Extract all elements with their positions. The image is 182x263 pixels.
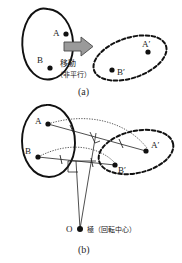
panel-a-label-B-prime: B′	[117, 67, 125, 77]
move-label-main: 移動	[60, 58, 76, 68]
pole-label: 極（回転中心）	[87, 225, 136, 234]
chord-A-Aprime	[48, 124, 146, 151]
panel-b-label-B: B	[25, 146, 31, 156]
panel-a-label-A-prime: A′	[142, 39, 150, 49]
move-block-arrow	[64, 37, 93, 56]
figure-root: A B 移動 （非平行） A′ B′ (a)	[0, 0, 182, 263]
panel-b-point-B	[35, 154, 40, 159]
panel-b-source-blob	[22, 105, 75, 177]
rotation-pole-diagram: A B 移動 （非平行） A′ B′ (a)	[0, 0, 182, 263]
panel-b-target-blob	[94, 123, 178, 181]
move-label-sub: （非平行）	[56, 70, 91, 79]
panel-b-label-A-prime: A′	[151, 140, 159, 150]
panel-b-label-B-prime: B′	[118, 165, 126, 175]
panel-a-target-blob	[88, 27, 173, 90]
arc-A-to-Aprime	[48, 119, 147, 148]
bisector-A-Aprime	[80, 133, 96, 229]
panel-a-point-A-prime	[145, 49, 150, 54]
panel-b-point-A-prime	[143, 148, 148, 153]
bisector-B-Bprime	[76, 161, 80, 229]
panel-b-label-A: A	[35, 116, 42, 126]
caption-b: (b)	[78, 244, 90, 256]
panel-b: A B A′ B′ O 極（回転中心） (b)	[22, 105, 178, 256]
panel-a-point-A	[63, 31, 68, 36]
panel-a-point-B-prime	[109, 67, 114, 72]
panel-a-label-A: A	[53, 28, 60, 38]
pole-point-O	[77, 226, 83, 232]
panel-b-label-O: O	[66, 224, 73, 234]
panel-b-point-A	[45, 121, 50, 126]
panel-a: A B 移動 （非平行） A′ B′ (a)	[22, 8, 172, 98]
panel-a-label-B: B	[37, 55, 43, 65]
caption-a: (a)	[78, 86, 89, 98]
panel-a-point-B	[47, 65, 52, 70]
panel-b-point-B-prime	[112, 162, 117, 167]
